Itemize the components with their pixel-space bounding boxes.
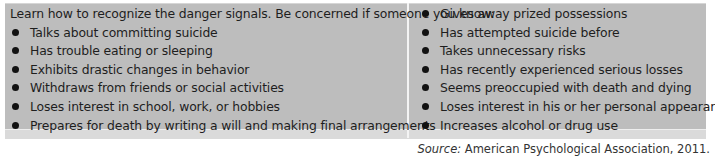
source-label: Source:: [418, 142, 462, 156]
list-item: Has trouble eating or sleeping: [10, 42, 402, 61]
bullet-icon: [12, 103, 19, 110]
list-item: Has recently experienced serious losses: [420, 61, 700, 80]
list-item: Loses interest in his or her personal ap…: [420, 98, 700, 117]
bullet-icon: [422, 10, 429, 17]
list-item: Withdraws from friends or social activit…: [10, 79, 402, 98]
list-item: Exhibits drastic changes in behavior: [10, 61, 402, 80]
list-item-text: Gives away prized possessions: [440, 6, 627, 21]
bullet-icon: [12, 66, 19, 73]
list-item: Prepares for death by writing a will and…: [10, 117, 402, 136]
bullet-icon: [422, 29, 429, 36]
list-item: Talks about committing suicide: [10, 24, 402, 43]
list-item: Loses interest in school, work, or hobbi…: [10, 98, 402, 117]
source-text: American Psychological Association, 2011…: [461, 142, 710, 156]
right-column: Gives away prized possessions Has attemp…: [420, 5, 700, 135]
bullet-icon: [12, 29, 19, 36]
list-item-text: Loses interest in school, work, or hobbi…: [30, 99, 280, 114]
list-item-text: Increases alcohol or drug use: [440, 118, 618, 133]
bullet-icon: [422, 66, 429, 73]
list-item-text: Withdraws from friends or social activit…: [30, 80, 284, 95]
bullet-icon: [422, 84, 429, 91]
bullet-icon: [422, 103, 429, 110]
list-item-text: Talks about committing suicide: [30, 25, 218, 40]
left-column: Learn how to recognize the danger signal…: [10, 5, 402, 135]
source-citation: Source: American Psychological Associati…: [418, 142, 711, 156]
list-item-text: Has attempted suicide before: [440, 25, 620, 40]
bullet-icon: [422, 122, 429, 129]
list-item-text: Has recently experienced serious losses: [440, 62, 683, 77]
bullet-icon: [12, 122, 19, 129]
bullet-icon: [12, 47, 19, 54]
list-item-text: Seems preoccupied with death and dying: [440, 80, 692, 95]
list-item-text: Takes unnecessary risks: [440, 43, 586, 58]
intro-text: Learn how to recognize the danger signal…: [10, 5, 402, 24]
list-item: Has attempted suicide before: [420, 24, 700, 43]
list-item: Takes unnecessary risks: [420, 42, 700, 61]
bullet-icon: [12, 84, 19, 91]
list-item-text: Loses interest in his or her personal ap…: [440, 99, 715, 114]
bullet-icon: [422, 47, 429, 54]
list-item: Gives away prized possessions: [420, 5, 700, 24]
list-item-text: Exhibits drastic changes in behavior: [30, 62, 249, 77]
list-item: Increases alcohol or drug use: [420, 117, 700, 136]
list-item-text: Has trouble eating or sleeping: [30, 43, 213, 58]
list-item-text: Prepares for death by writing a will and…: [30, 118, 436, 133]
list-item: Seems preoccupied with death and dying: [420, 79, 700, 98]
